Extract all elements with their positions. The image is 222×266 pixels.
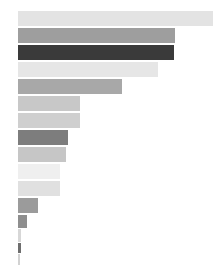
bar: [18, 62, 158, 77]
bar: [18, 164, 60, 179]
bar: [18, 181, 60, 196]
bar: [18, 96, 80, 111]
bar: [18, 147, 66, 162]
plot-area: [0, 0, 222, 266]
bar: [18, 229, 21, 242]
bar: [18, 254, 20, 265]
bar: [18, 198, 38, 213]
bar: [18, 28, 175, 43]
bar: [18, 11, 213, 26]
bar: [18, 215, 27, 228]
bar: [18, 113, 80, 128]
bar: [18, 130, 68, 145]
bar: [18, 45, 174, 60]
bar: [18, 243, 21, 253]
bar-chart: [0, 0, 222, 266]
bar: [18, 79, 122, 94]
